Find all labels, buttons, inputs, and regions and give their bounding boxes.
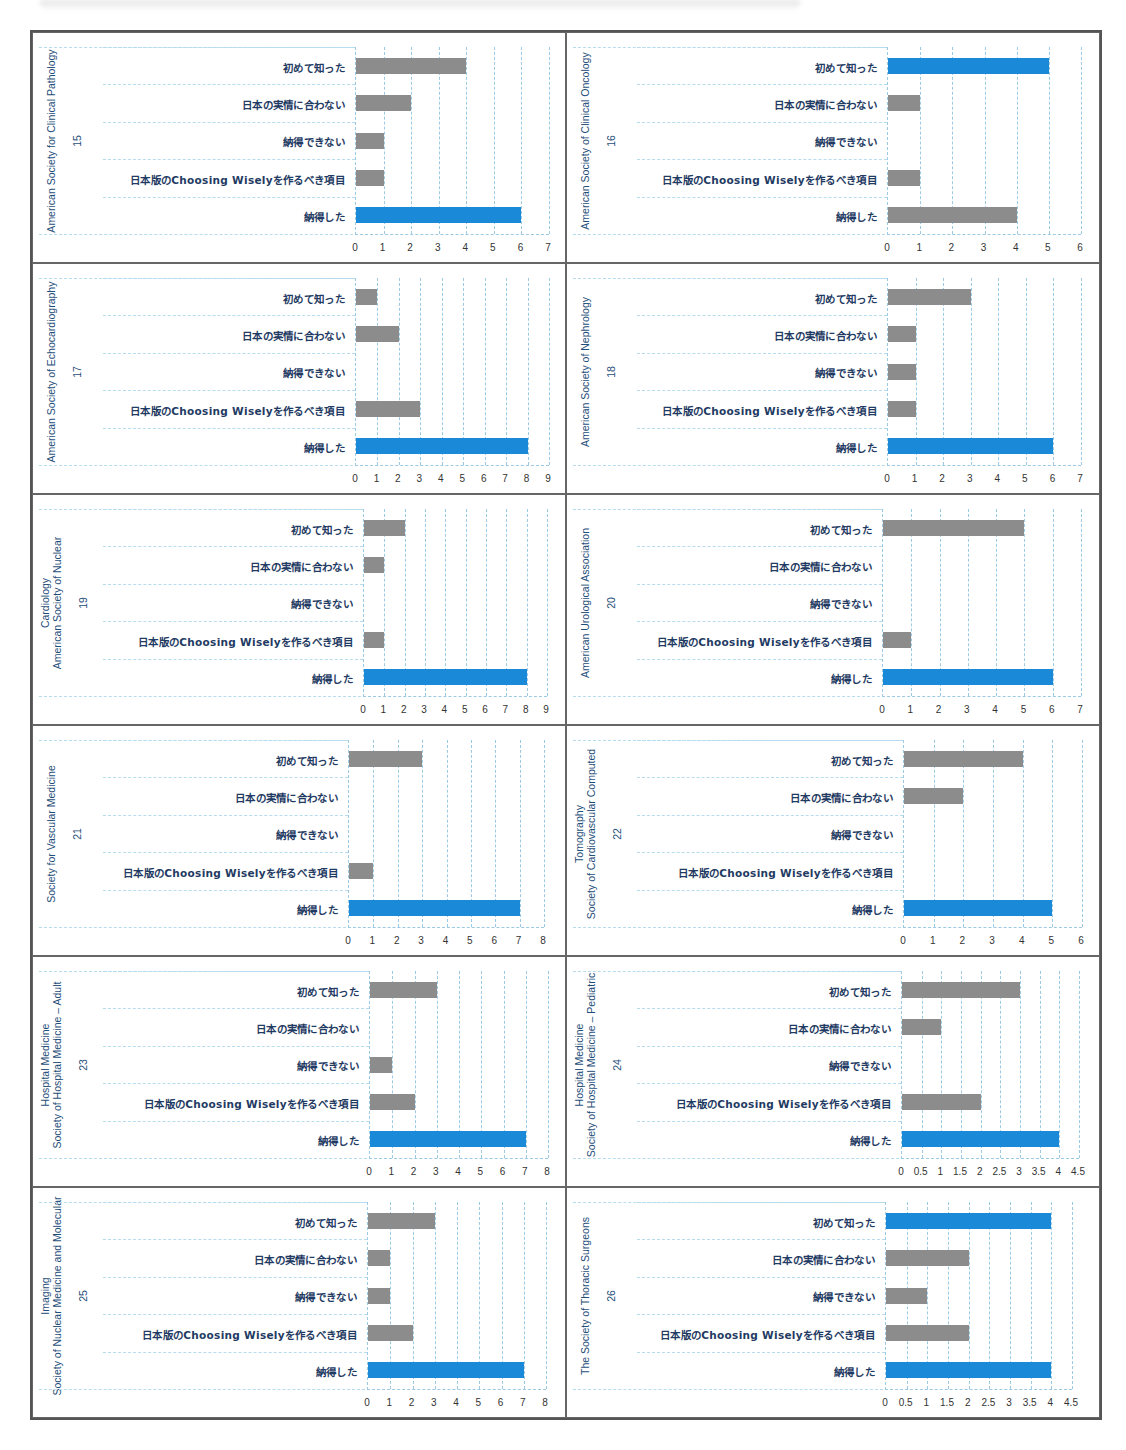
category-row: 日本の実情に合わない — [103, 1239, 367, 1277]
category-row: 納得した — [637, 428, 887, 466]
gridline — [411, 47, 412, 234]
bar — [349, 751, 422, 767]
chart-panel-18: 18American Society of Nephrology初めて知った日本… — [566, 263, 1100, 494]
category-label: 日本版のChoosing Wiselyを作るべき項目 — [657, 633, 872, 648]
bar — [888, 95, 920, 111]
x-tick-label: 0.5 — [899, 1397, 913, 1408]
gridline — [961, 971, 962, 1158]
gridline — [422, 740, 423, 927]
chart-number: 21 — [71, 828, 83, 840]
x-tick-label: 1 — [370, 935, 376, 946]
category-label: 日本版のChoosing Wiselyを作るべき項目 — [130, 171, 345, 186]
gridline — [920, 47, 921, 234]
gridline — [384, 47, 385, 234]
category-label: 初めて知った — [831, 752, 893, 767]
bar — [364, 632, 384, 648]
gridline — [1017, 47, 1018, 234]
x-tick-label: 5 — [1049, 935, 1055, 946]
plot-area — [367, 1202, 546, 1390]
divider — [573, 1202, 883, 1203]
x-tick-label: 2 — [949, 242, 955, 253]
category-axis: 初めて知った日本の実情に合わない納得できない日本版のChoosing Wisel… — [637, 47, 887, 234]
x-tick-label: 0 — [900, 935, 906, 946]
category-row: 日本の実情に合わない — [637, 315, 887, 353]
category-label: 日本の実情に合わない — [250, 559, 353, 574]
category-row: 初めて知った — [103, 278, 355, 316]
category-label: 納得した — [852, 902, 893, 917]
chart-panel-17: 17American Society of Echocardiography初め… — [32, 263, 566, 494]
gridline — [399, 278, 400, 465]
chart-panel-22: 22Society of Cardiovascular ComputedTomo… — [566, 725, 1100, 956]
gridline — [1023, 740, 1024, 927]
gridline — [1051, 1202, 1052, 1389]
gridline — [384, 509, 385, 696]
category-label: 納得した — [836, 209, 877, 224]
divider — [39, 1389, 365, 1390]
category-label: 納得した — [831, 671, 872, 686]
bar — [883, 632, 911, 648]
x-tick-label: 2 — [394, 935, 400, 946]
x-tick-label: 3 — [989, 935, 995, 946]
x-tick-label: 2 — [409, 1397, 415, 1408]
category-label: 初めて知った — [810, 521, 872, 536]
category-row: 初めて知った — [103, 1202, 367, 1240]
divider — [573, 971, 899, 972]
bar — [888, 401, 916, 417]
category-row: 納得できない — [637, 1046, 901, 1084]
category-axis: 初めて知った日本の実情に合わない納得できない日本版のChoosing Wisel… — [103, 1202, 367, 1389]
gridline — [1049, 47, 1050, 234]
chart-title-line: Society of Hospital Medicine – Pediatric — [585, 972, 597, 1156]
x-tick-label: 1 — [388, 1166, 394, 1177]
category-axis: 初めて知った日本の実情に合わない納得できない日本版のChoosing Wisel… — [103, 509, 363, 696]
category-label: 日本の実情に合わない — [769, 559, 872, 574]
gridline — [494, 47, 495, 234]
category-row: 日本版のChoosing Wiselyを作るべき項目 — [103, 852, 348, 890]
chart-title-line: Tomography — [573, 805, 585, 863]
x-tick-label: 6 — [481, 473, 487, 484]
category-axis: 初めて知った日本の実情に合わない納得できない日本版のChoosing Wisel… — [637, 509, 882, 696]
gridline — [968, 509, 969, 696]
gridline — [549, 47, 550, 234]
category-label: 納得した — [318, 1133, 359, 1148]
axis-title: 22Society of Cardiovascular ComputedTomo… — [573, 740, 623, 927]
chart-number: 26 — [605, 1290, 617, 1302]
category-row: 日本の実情に合わない — [103, 546, 363, 584]
bar — [883, 520, 1024, 536]
gridline — [392, 971, 393, 1158]
category-label: 納得できない — [815, 134, 877, 149]
category-row: 納得した — [637, 197, 887, 235]
divider — [573, 234, 885, 235]
gridline — [1031, 1202, 1032, 1389]
chart-title-line: Society of Nuclear Medicine and Molecula… — [51, 1196, 63, 1395]
x-tick-label: 2.5 — [992, 1166, 1006, 1177]
gridline — [1052, 740, 1053, 927]
category-label: 納得した — [316, 1364, 357, 1379]
category-label: 日本の実情に合わない — [242, 328, 345, 343]
gridline — [989, 1202, 990, 1389]
x-tick-label: 5 — [467, 935, 473, 946]
x-tick-label: 0 — [879, 704, 885, 715]
category-row: 納得できない — [637, 353, 887, 391]
category-label: 納得できない — [276, 827, 338, 842]
bar — [368, 1213, 435, 1229]
category-row: 日本版のChoosing Wiselyを作るべき項目 — [103, 390, 355, 428]
axis-title: 17American Society of Echocardiography — [39, 278, 89, 465]
x-tick-label: 2 — [939, 473, 945, 484]
category-label: 日本の実情に合わない — [254, 1252, 357, 1267]
category-row: 日本の実情に合わない — [103, 315, 355, 353]
gridline — [547, 509, 548, 696]
gridline — [521, 47, 522, 234]
gridline — [405, 509, 406, 696]
x-tick-label: 4 — [443, 935, 449, 946]
category-label: 初めて知った — [291, 521, 353, 536]
category-row: 日本版のChoosing Wiselyを作るべき項目 — [103, 1083, 369, 1121]
gridline — [1081, 47, 1082, 234]
category-row: 納得した — [103, 659, 363, 697]
plot-area — [369, 971, 548, 1159]
x-tick-label: 5 — [475, 1397, 481, 1408]
category-label: 日本の実情に合わない — [788, 1021, 891, 1036]
gridline — [998, 278, 999, 465]
chart-title-line: Imaging — [39, 1277, 51, 1314]
x-tick-label: 7 — [516, 935, 522, 946]
x-tick-label: 2 — [395, 473, 401, 484]
